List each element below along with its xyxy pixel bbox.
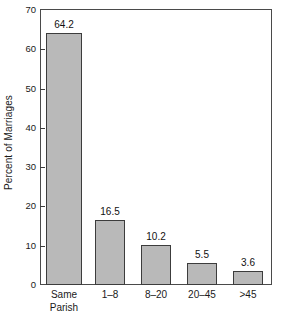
y-tick-label: 20 <box>18 201 36 211</box>
bar <box>141 245 171 285</box>
y-tick-label: 40 <box>18 123 36 133</box>
bar-value-label: 3.6 <box>223 258 273 268</box>
bar <box>187 263 217 285</box>
x-category-label-line: >45 <box>240 289 257 300</box>
bar <box>233 271 263 285</box>
x-category-label-line: Same <box>51 289 77 300</box>
bar <box>46 33 82 285</box>
y-tick-label: 10 <box>18 241 36 251</box>
x-category-label-line: Parish <box>34 302 94 315</box>
bar-value-label: 64.2 <box>39 20 89 30</box>
bars-layer: 64.216.510.25.53.6 <box>41 10 271 285</box>
bar-value-label: 16.5 <box>85 207 135 217</box>
y-tick-label: 30 <box>18 162 36 172</box>
y-tick-label: 60 <box>18 44 36 54</box>
y-tick-label: 50 <box>18 84 36 94</box>
bar-chart-figure: Percent of Marriages 010203040506070 64.… <box>0 0 284 324</box>
x-category-label: >45 <box>218 289 278 302</box>
y-tick-label: 70 <box>18 5 36 15</box>
x-axis-category-labels: SameParish1–88–2020–45>45 <box>41 289 271 324</box>
bar-value-label: 5.5 <box>177 250 227 260</box>
x-category-label-line: 8–20 <box>145 289 167 300</box>
bar-value-label: 10.2 <box>131 232 181 242</box>
y-axis-tick-labels: 010203040506070 <box>17 0 36 324</box>
bar <box>95 220 125 285</box>
y-axis-title-text: Percent of Marriages <box>3 95 14 190</box>
x-category-label-line: 20–45 <box>188 289 216 300</box>
x-category-label-line: 1–8 <box>102 289 119 300</box>
y-axis-title: Percent of Marriages <box>0 0 16 285</box>
